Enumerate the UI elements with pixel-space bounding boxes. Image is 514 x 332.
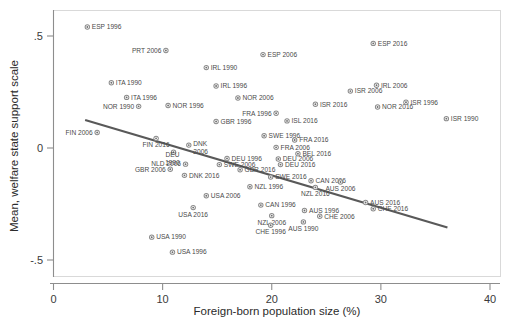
x-tick-label: 20 xyxy=(266,293,278,305)
y-tick-label: 0 xyxy=(37,142,43,154)
data-point-label: ISR 1990 xyxy=(451,115,479,122)
y-axis-title: Mean, welfare state support scale xyxy=(8,60,20,232)
data-point-label: ESP 2006 xyxy=(268,51,298,58)
x-tick-label: 30 xyxy=(375,293,387,305)
data-point: IRL 1996 xyxy=(213,82,247,89)
scatter-chart: .50-.5 010203040 ESP 1996PRT 2006ESP 201… xyxy=(0,0,514,332)
data-point-label: FRA 2016 xyxy=(299,136,329,143)
data-point: NOR 1996 xyxy=(165,102,204,109)
data-point-label: USA 2006 xyxy=(211,192,241,199)
data-point-label: AUS 2006 xyxy=(325,185,355,192)
data-point-label: IRL 1990 xyxy=(211,64,238,71)
data-point: USA 1990 xyxy=(149,233,186,240)
data-point-label: FRA 1996 xyxy=(242,110,272,117)
data-point-label: CAN 1996 xyxy=(265,201,296,208)
data-point: FIN 2006 xyxy=(66,129,100,136)
data-point: NOR 2016 xyxy=(375,103,414,110)
data-point-label: FIN 2006 xyxy=(66,129,93,136)
data-point-label: CHE 1996 xyxy=(255,228,286,235)
data-point-label: GBR 1996 xyxy=(221,118,252,125)
data-point-label: FIN 2016 xyxy=(143,141,170,148)
data-point: ISL 2016 xyxy=(284,117,318,124)
data-point: ITA 1990 xyxy=(109,79,142,86)
x-tick-label: 10 xyxy=(157,293,169,305)
data-point-label: USA 2016 xyxy=(178,211,208,218)
data-point-label: NOR 1990 xyxy=(103,103,134,110)
y-tick-label: -.5 xyxy=(30,254,43,266)
data-point: NZL 1996 xyxy=(247,183,283,190)
data-point: USA 1996 xyxy=(170,248,207,255)
data-points: ESP 1996PRT 2006ESP 2016ESP 2006IRL 1990… xyxy=(66,23,479,255)
data-point: ITA 1996 xyxy=(124,94,157,101)
data-point-label: NOR 1996 xyxy=(173,102,204,109)
data-point-label: ISR 2006 xyxy=(355,87,383,94)
x-axis-title: Foreign-born population size (%) xyxy=(194,305,361,317)
data-point-label: ITA 1996 xyxy=(131,94,157,101)
data-point: ISR 1990 xyxy=(444,115,479,122)
data-point-label: ISR 2016 xyxy=(320,101,348,108)
data-point-label: IRL 1996 xyxy=(221,82,248,89)
data-point-label: ISL 2016 xyxy=(292,117,318,124)
data-point-label: ESP 1996 xyxy=(92,23,122,30)
data-point-label: DEU 2016 xyxy=(285,161,316,168)
x-tick-label: 0 xyxy=(50,293,56,305)
data-point: ESP 2016 xyxy=(371,40,408,47)
y-axis-ticks: .50-.5 xyxy=(30,30,53,266)
x-axis-ticks: 010203040 xyxy=(50,284,496,306)
data-point: ESP 2006 xyxy=(260,51,297,58)
data-point-label: PRT 2006 xyxy=(132,47,162,54)
y-tick-label: .5 xyxy=(34,30,43,42)
data-point-label: GBR 2016 xyxy=(245,166,276,173)
data-point-label: ISR 1996 xyxy=(410,99,438,106)
data-point-label: DNK 2016 xyxy=(189,172,220,179)
data-point-label: NZL 2016 xyxy=(301,190,330,197)
data-point-label: NOR 2016 xyxy=(382,103,413,110)
data-point: DNK 2016 xyxy=(182,172,220,179)
data-point: FRA 1996 xyxy=(242,110,279,117)
data-point-label: USA 1996 xyxy=(177,248,207,255)
data-point: ESP 1996 xyxy=(85,23,122,30)
data-point: USA 2006 xyxy=(204,192,241,199)
data-point: IRL 1990 xyxy=(204,64,238,71)
data-point-label: GBR 2006 xyxy=(135,166,166,173)
data-point-label: SWE 2016 xyxy=(275,173,307,180)
data-point-label: CHE 2006 xyxy=(324,213,355,220)
data-point-label: NZL 1996 xyxy=(254,183,283,190)
data-point-label: DNK2006 xyxy=(193,140,208,155)
data-point-label: IRL 2006 xyxy=(381,82,408,89)
data-point: PRT 2006 xyxy=(132,47,169,54)
data-point-label: AUS 1990 xyxy=(288,225,318,232)
data-point: AUS 1990 xyxy=(288,219,318,232)
data-point-label: NOR 2006 xyxy=(242,94,273,101)
data-point: ISR 2006 xyxy=(348,87,383,94)
data-point: CAN 1996 xyxy=(258,201,296,208)
data-point: USA 2016 xyxy=(178,205,208,218)
data-point: DNK2006 xyxy=(186,140,208,155)
data-point-label: ESP 2016 xyxy=(378,40,408,47)
data-point: GBR 1996 xyxy=(213,118,251,125)
data-point-label: ITA 1990 xyxy=(116,79,142,86)
data-point: NOR 1990 xyxy=(103,103,141,110)
data-point: NOR 2006 xyxy=(235,94,274,101)
x-tick-label: 40 xyxy=(484,293,496,305)
data-point: ISR 2016 xyxy=(313,101,348,108)
chart-canvas: .50-.5 010203040 ESP 1996PRT 2006ESP 201… xyxy=(0,0,514,332)
data-point-label: CHE 2016 xyxy=(378,205,409,212)
data-point-label: USA 1990 xyxy=(156,233,186,240)
